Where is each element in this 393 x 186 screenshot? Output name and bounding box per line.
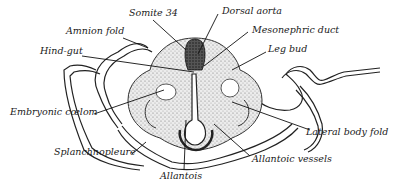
label-leg-bud: Leg bud xyxy=(268,44,307,54)
label-lateral-body-fold: Lateral body fold xyxy=(306,127,388,137)
label-splanchnopleure: Splanchnopleure xyxy=(54,147,136,157)
label-somite-34: Somite 34 xyxy=(129,8,178,18)
embryo-body xyxy=(128,38,262,150)
label-amnion-fold: Amnion fold xyxy=(66,26,124,36)
label-embryonic-coelom: Embryonic cœlom xyxy=(10,107,98,117)
diagram-canvas: Somite 34 Dorsal aorta Amnion fold Meson… xyxy=(0,0,393,186)
label-allantois: Allantois xyxy=(160,171,202,181)
label-hind-gut: Hind-gut xyxy=(40,46,83,56)
label-mesonephric-duct: Mesonephric duct xyxy=(252,25,339,35)
neural-tube xyxy=(185,39,205,70)
label-allantoic-vessels: Allantoic vessels xyxy=(252,154,332,164)
label-dorsal-aorta: Dorsal aorta xyxy=(222,6,282,16)
coelom-right xyxy=(221,79,239,97)
